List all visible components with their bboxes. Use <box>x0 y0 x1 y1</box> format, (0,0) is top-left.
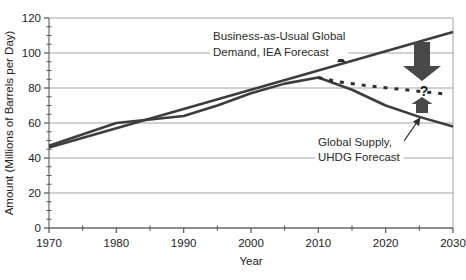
supply-label-arrow <box>404 118 420 141</box>
x-tick-label: 1970 <box>36 237 62 249</box>
y-tick-label: 0 <box>35 222 41 234</box>
x-axis-title: Year <box>239 255 262 267</box>
demand-label: Business-as-Usual GlobalDemand, IEA Fore… <box>210 29 348 59</box>
oil-supply-demand-chart: 0204060801001201970198019902000201020202… <box>0 0 466 280</box>
x-tick-label: 2020 <box>373 237 399 249</box>
x-tick-label: 2030 <box>440 237 466 249</box>
y-tick-label: 120 <box>22 12 41 24</box>
y-axis-title: Amount (Millions of Barrels per Day) <box>3 30 15 215</box>
x-tick-label: 1990 <box>171 237 197 249</box>
big-down-arrow <box>403 42 441 81</box>
y-tick-label: 100 <box>22 47 41 59</box>
y-tick-label: 40 <box>28 152 41 164</box>
y-tick-label: 60 <box>28 117 41 129</box>
chart-svg: 0204060801001201970198019902000201020202… <box>0 0 466 280</box>
y-tick-label: 80 <box>28 82 41 94</box>
question-mark: ? <box>420 83 429 99</box>
y-tick-label: 20 <box>28 187 41 199</box>
x-tick-label: 2010 <box>306 237 332 249</box>
x-tick-label: 2000 <box>238 237 264 249</box>
supply-label: Global Supply,UHDG Forecast <box>315 135 404 164</box>
x-tick-label: 1980 <box>104 237 130 249</box>
small-up-arrow <box>412 97 433 113</box>
